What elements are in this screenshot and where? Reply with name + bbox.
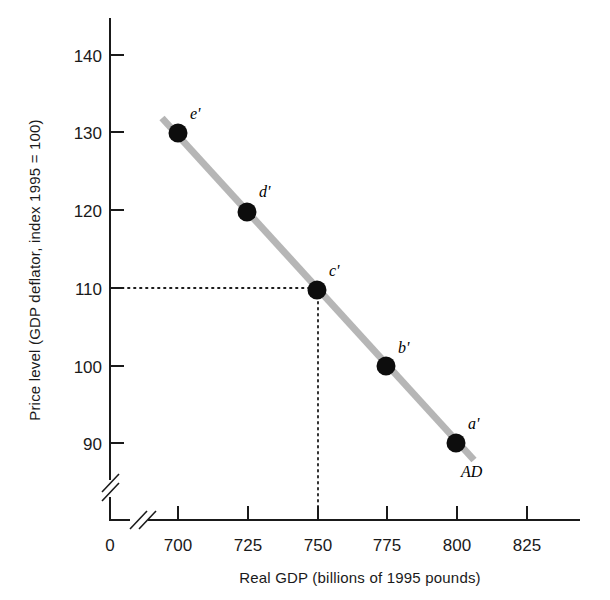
origin-label: 0 xyxy=(105,536,114,555)
data-point-label-a: a' xyxy=(468,415,480,432)
x-tick-label-825: 825 xyxy=(513,536,541,555)
ad-curve-label: AD xyxy=(460,463,483,480)
y-tick-label-110: 110 xyxy=(75,280,102,299)
aggregate-demand-chart: 140 130 120 110 100 90 0 700 725 750 775… xyxy=(0,0,610,600)
data-point-label-b: b' xyxy=(398,339,410,356)
x-tick-label-775: 775 xyxy=(373,536,401,555)
data-point-e xyxy=(169,124,188,143)
data-point-a xyxy=(447,434,466,453)
y-axis-title: Price level (GDP deflator, index 1995 = … xyxy=(26,119,43,421)
data-point-b xyxy=(377,357,396,376)
data-point-label-c: c' xyxy=(329,262,340,279)
x-tick-label-750: 750 xyxy=(304,536,332,555)
y-tick-label-140: 140 xyxy=(74,47,102,66)
y-tick-label-100: 100 xyxy=(74,358,102,377)
data-point-label-d: d' xyxy=(259,183,271,200)
chart-background xyxy=(0,0,610,600)
y-tick-label-90: 90 xyxy=(83,435,102,454)
x-tick-label-700: 700 xyxy=(164,536,192,555)
y-tick-label-120: 120 xyxy=(74,202,102,221)
x-axis-title: Real GDP (billions of 1995 pounds) xyxy=(239,569,481,586)
y-tick-label-130: 130 xyxy=(74,124,102,143)
data-point-label-e: e' xyxy=(190,105,201,122)
data-point-c xyxy=(308,281,327,300)
x-tick-label-725: 725 xyxy=(234,536,262,555)
data-point-d xyxy=(238,203,257,222)
x-tick-label-800: 800 xyxy=(443,536,471,555)
